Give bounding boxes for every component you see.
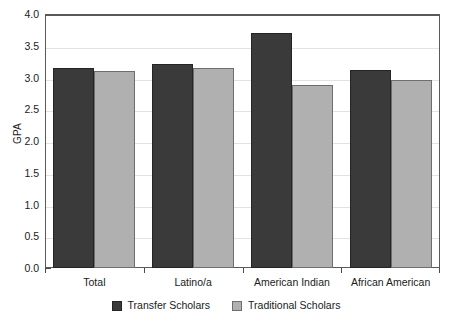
x-tick-label: African American bbox=[351, 276, 430, 289]
y-tick-label: 3.5 bbox=[6, 41, 39, 51]
legend-swatch-icon bbox=[232, 301, 242, 311]
x-tick-mark bbox=[341, 268, 342, 273]
bar bbox=[53, 68, 94, 268]
y-tick-label: 0.5 bbox=[6, 231, 39, 241]
x-tick-label: Latino/a bbox=[174, 276, 211, 289]
x-tick-label: American Indian bbox=[254, 276, 330, 289]
y-tick-label: 4.0 bbox=[6, 9, 39, 19]
legend-item[interactable]: Traditional Scholars bbox=[232, 300, 340, 311]
y-tick-label: 1.5 bbox=[6, 168, 39, 178]
bar bbox=[94, 71, 135, 268]
bar bbox=[350, 70, 391, 268]
legend-label: Traditional Scholars bbox=[248, 300, 340, 311]
bar bbox=[152, 64, 193, 268]
x-tick-mark bbox=[144, 268, 145, 273]
y-tick-label: 2.0 bbox=[6, 136, 39, 146]
legend-swatch-icon bbox=[112, 301, 122, 311]
legend-label: Transfer Scholars bbox=[128, 300, 210, 311]
x-axis-ticks: TotalLatino/aAmerican IndianAfrican Amer… bbox=[45, 268, 440, 298]
x-tick-mark bbox=[243, 268, 244, 273]
bars-layer bbox=[45, 14, 440, 268]
bar bbox=[292, 85, 333, 269]
y-axis-ticks: 0.00.51.01.52.02.53.03.54.0 bbox=[6, 0, 39, 326]
bar bbox=[251, 33, 292, 268]
y-tick-label: 1.0 bbox=[6, 200, 39, 210]
bar bbox=[391, 80, 432, 268]
y-tick-label: 0.0 bbox=[6, 263, 39, 273]
y-tick-label: 3.0 bbox=[6, 73, 39, 83]
chart-legend: Transfer ScholarsTraditional Scholars bbox=[0, 300, 452, 311]
x-tick-label: Total bbox=[83, 276, 105, 289]
x-tick-mark bbox=[439, 268, 440, 273]
legend-item[interactable]: Transfer Scholars bbox=[112, 300, 210, 311]
bar bbox=[193, 68, 234, 268]
x-tick-mark bbox=[45, 268, 46, 273]
y-tick-label: 2.5 bbox=[6, 104, 39, 114]
gpa-bar-chart: GPA 0.00.51.01.52.02.53.03.54.0 TotalLat… bbox=[0, 0, 452, 326]
